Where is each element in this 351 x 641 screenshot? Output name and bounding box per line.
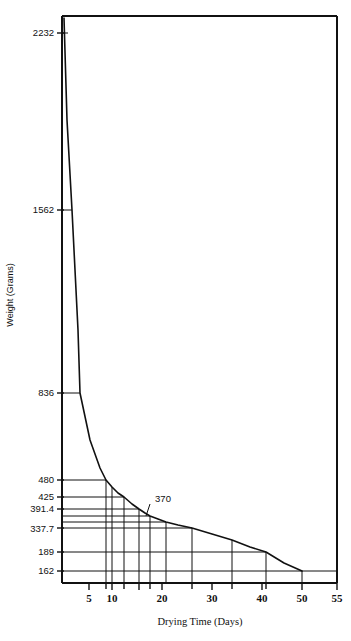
ylabel-2232: 2232: [33, 27, 54, 38]
data-curve-group: [64, 18, 302, 571]
weight-drying-curve: [64, 18, 302, 571]
x-axis-ticks: [89, 583, 337, 590]
xlabel-55: 55: [332, 592, 344, 604]
ylabel-1562: 1562: [33, 204, 54, 215]
ylabel-337-7: 337.7: [30, 523, 54, 534]
xlabel-30: 30: [207, 592, 219, 604]
annotation-370-group: 370: [146, 493, 171, 516]
ylabel-189: 189: [38, 546, 54, 557]
xlabel-50: 50: [297, 592, 309, 604]
ylabel-836: 836: [38, 387, 54, 398]
annotation-370-label: 370: [155, 493, 171, 504]
xlabel-20: 20: [157, 592, 169, 604]
x-axis-title: Drying Time (Days): [157, 616, 243, 628]
chart-figure: 370 2232 1562 836 480 425 391.4 337.7 18…: [0, 0, 351, 641]
x-tick-labels: 5 10 20 30 40 50 55: [86, 592, 343, 604]
ylabel-480: 480: [38, 474, 54, 485]
ylabel-162: 162: [38, 565, 54, 576]
ylabel-425: 425: [38, 491, 54, 502]
xlabel-5: 5: [86, 592, 92, 604]
ylabel-391-4: 391.4: [30, 503, 54, 514]
horizontal-gridlines: [62, 33, 337, 571]
plot-frame: [62, 16, 337, 583]
xlabel-40: 40: [257, 592, 269, 604]
y-axis-title: Weight (Grams): [5, 263, 15, 326]
xlabel-10: 10: [107, 592, 119, 604]
chart-svg: 370 2232 1562 836 480 425 391.4 337.7 18…: [0, 0, 351, 641]
y-tick-labels: 2232 1562 836 480 425 391.4 337.7 189 16…: [30, 27, 54, 576]
